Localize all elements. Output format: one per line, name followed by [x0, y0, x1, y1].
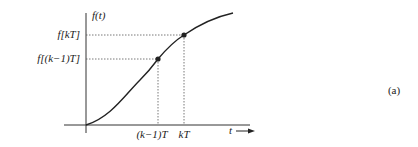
y-tick-label-kT: f[kT] — [57, 28, 80, 40]
sample-point-kT — [181, 32, 186, 37]
sample-point-k1T — [155, 56, 160, 61]
y-tick-label-k1T: f[(k−1)T] — [37, 52, 80, 65]
y-axis-label: f(t) — [92, 9, 106, 22]
sampled-function-diagram: f(t) f[kT] f[(k−1)T] (k−1)T kT t (a) — [0, 0, 418, 147]
t-arrow-icon — [248, 129, 255, 134]
function-curve — [86, 13, 233, 125]
x-axis-label: t — [229, 124, 233, 136]
x-tick-label-k1T: (k−1)T — [136, 128, 168, 141]
panel-label: (a) — [388, 84, 401, 97]
x-tick-label-kT: kT — [179, 128, 191, 140]
